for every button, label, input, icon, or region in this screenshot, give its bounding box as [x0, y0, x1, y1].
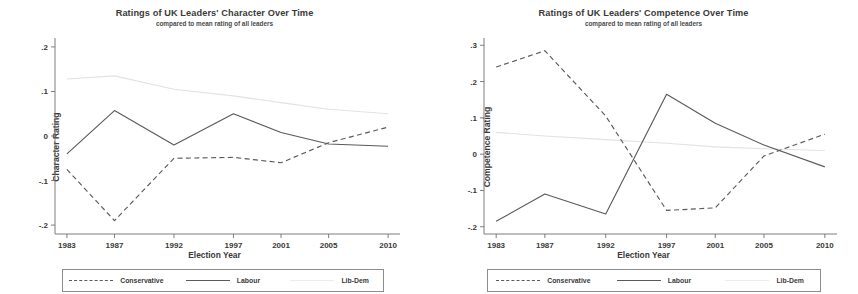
legend-character: Conservative Labour Lib-Dem — [62, 269, 384, 292]
faint-line-key-icon — [290, 280, 334, 282]
svg-text:0: 0 — [44, 132, 49, 141]
svg-text:-.1: -.1 — [468, 186, 478, 195]
chart-subtitle-character: compared to mean rating of all leaders — [0, 20, 429, 27]
legend-competence: Conservative Labour Lib-Dem — [487, 269, 821, 292]
svg-text:1987: 1987 — [106, 241, 124, 250]
legend-item-labour[interactable]: Labour — [170, 277, 277, 284]
svg-text:.3: .3 — [470, 41, 477, 50]
solid-line-key-icon — [186, 280, 230, 282]
legend-label-conservative: Conservative — [547, 277, 590, 284]
legend-item-libdem[interactable]: Lib-Dem — [276, 277, 383, 284]
legend-label-conservative: Conservative — [120, 277, 163, 284]
dashed-line-key-icon — [69, 280, 113, 282]
svg-text:2005: 2005 — [755, 241, 773, 250]
dashed-line-key-icon — [496, 280, 540, 282]
svg-text:2001: 2001 — [706, 241, 724, 250]
legend-label-labour: Labour — [668, 277, 691, 284]
x-axis-label-competence: Election Year — [429, 250, 858, 260]
svg-text:0: 0 — [473, 150, 478, 159]
legend-item-libdem[interactable]: Lib-Dem — [709, 277, 820, 284]
chart-title-competence: Ratings of UK Leaders' Competence Over T… — [429, 8, 858, 18]
svg-text:2010: 2010 — [816, 241, 834, 250]
svg-text:1992: 1992 — [597, 241, 615, 250]
svg-text:-.2: -.2 — [468, 223, 478, 232]
svg-text:1992: 1992 — [165, 241, 183, 250]
chart-panel-character: Ratings of UK Leaders' Character Over Ti… — [0, 0, 429, 294]
chart-svg-competence: .3.2.10-.1-.2198319871992199720012005201… — [484, 38, 837, 234]
svg-text:2010: 2010 — [379, 241, 397, 250]
svg-text:2005: 2005 — [320, 241, 338, 250]
svg-text:-.2: -.2 — [39, 221, 49, 230]
svg-text:.2: .2 — [41, 43, 48, 52]
legend-label-labour: Labour — [237, 277, 260, 284]
legend-item-labour[interactable]: Labour — [599, 277, 710, 284]
x-axis-label-character: Election Year — [0, 250, 429, 260]
chart-svg-character: .2.10-.1-.21983198719921997200120052010 — [55, 38, 400, 234]
svg-text:1997: 1997 — [658, 241, 676, 250]
chart-subtitle-competence: compared to mean rating of all leaders — [429, 20, 858, 27]
figure-sheet: Ratings of UK Leaders' Character Over Ti… — [0, 0, 858, 294]
solid-line-key-icon — [617, 280, 661, 282]
chart-title-character: Ratings of UK Leaders' Character Over Ti… — [0, 8, 429, 18]
svg-text:1997: 1997 — [225, 241, 243, 250]
svg-text:1983: 1983 — [487, 241, 505, 250]
legend-item-conservative[interactable]: Conservative — [488, 277, 599, 284]
faint-line-key-icon — [725, 280, 769, 282]
plot-area-character: .2.10-.1-.21983198719921997200120052010 — [55, 38, 400, 234]
chart-panel-competence: Ratings of UK Leaders' Competence Over T… — [429, 0, 858, 294]
svg-text:1987: 1987 — [536, 241, 554, 250]
svg-text:2001: 2001 — [272, 241, 290, 250]
svg-text:.2: .2 — [470, 78, 477, 87]
legend-label-libdem: Lib-Dem — [341, 277, 369, 284]
svg-text:-.1: -.1 — [39, 177, 49, 186]
legend-item-conservative[interactable]: Conservative — [63, 277, 170, 284]
legend-label-libdem: Lib-Dem — [776, 277, 804, 284]
plot-area-competence: .3.2.10-.1-.2198319871992199720012005201… — [484, 38, 837, 234]
svg-text:1983: 1983 — [58, 241, 76, 250]
svg-text:.1: .1 — [41, 87, 48, 96]
svg-text:.1: .1 — [470, 114, 477, 123]
